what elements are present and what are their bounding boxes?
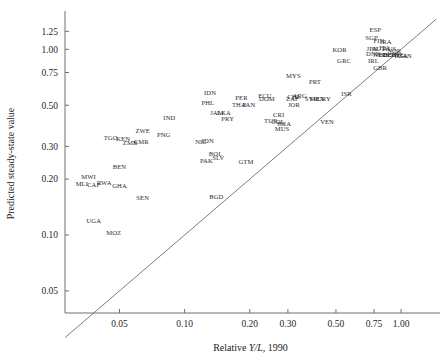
x-tick-label: 0.20 (241, 319, 258, 329)
country-point-png: PNG (157, 131, 171, 138)
country-point-dom: DOM (259, 95, 275, 102)
country-point-cmr: CMR (134, 138, 149, 145)
country-point-mus: MUS (275, 125, 290, 132)
x-axis-title: Relative Y/L, 1990 (213, 342, 288, 353)
y-tick-label: 1.25 (41, 27, 58, 37)
x-tick-label: 0.05 (111, 319, 128, 329)
country-point-idn: IDN (204, 89, 216, 96)
country-point-bgd: BGD (209, 193, 223, 200)
country-point-jor: JOR (288, 101, 301, 108)
country-point-ven: VEN (320, 118, 334, 125)
x-tick-label: 0.50 (328, 319, 345, 329)
figure-container: 0.050.100.200.300.500.751.00 0.050.100.2… (0, 0, 443, 364)
y-tick-label: 0.10 (41, 230, 58, 240)
country-point-idn: IDN (202, 137, 214, 144)
country-point-kor: KOR (332, 46, 347, 53)
y-tick-label: 0.30 (41, 142, 58, 152)
y-axis-title: Predicted steady-state value (5, 107, 16, 219)
country-point-per: PER (235, 94, 248, 101)
country-point-pak: PAK (200, 157, 213, 164)
scatter-plot: 0.050.100.200.300.500.751.00 0.050.100.2… (0, 0, 443, 364)
x-tick-label: 0.75 (366, 319, 383, 329)
y-tick-label: 1.00 (41, 45, 58, 55)
country-point-gha: GHA (112, 182, 127, 189)
x-axis-ticks: 0.050.100.200.300.500.751.00 (111, 309, 409, 329)
y-tick-label: 0.75 (41, 68, 58, 78)
country-point-ind: IND (163, 114, 175, 121)
y-tick-label: 0.50 (41, 101, 58, 111)
country-point-mys: MYS (286, 72, 301, 79)
country-point-phl: PHL (201, 99, 214, 106)
country-point-grc: GRC (337, 57, 351, 64)
x-tick-label: 0.10 (176, 319, 193, 329)
country-point-slv: SLV (212, 154, 224, 161)
country-point-moz: MOZ (106, 229, 121, 236)
country-point-ury: URY (317, 95, 331, 102)
y-tick-label: 0.20 (41, 174, 58, 184)
country-point-pan: PAN (242, 101, 255, 108)
country-point-zwe: ZWE (135, 127, 150, 134)
x-tick-label: 1.00 (393, 319, 410, 329)
country-point-rwa: RWA (97, 179, 112, 186)
country-point-sen: SEN (136, 194, 149, 201)
country-point-isr: ISR (341, 90, 352, 97)
country-point-ben: BEN (113, 163, 127, 170)
x-tick-label: 0.30 (280, 319, 297, 329)
country-point-uga: UGA (86, 217, 101, 224)
y-tick-label: 0.05 (41, 286, 58, 296)
country-point-prt: PRT (309, 78, 321, 85)
country-point-gtm: GTM (238, 158, 253, 165)
country-point-esp: ESP (369, 26, 381, 33)
country-point-mwi: MWI (81, 173, 96, 180)
country-point-can: CAN (398, 52, 412, 59)
data-point-labels: UGAMOZMWIMLICAFRWAGHABENSENTGOKENZMBCMRZ… (76, 26, 412, 236)
country-point-pry: PRY (221, 115, 234, 122)
country-point-gbr: GBR (373, 64, 387, 71)
